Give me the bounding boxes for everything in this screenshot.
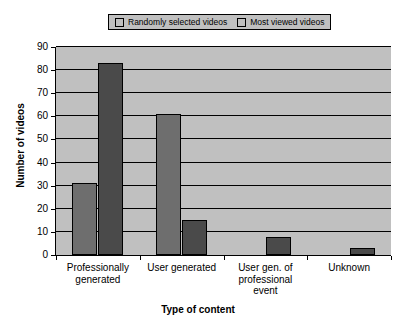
bar — [266, 237, 291, 255]
gridline — [56, 46, 391, 47]
y-axis-tick — [51, 139, 55, 140]
bar — [72, 183, 97, 255]
y-axis-tick — [51, 70, 55, 71]
y-axis-tick-label: 0 — [18, 250, 48, 260]
x-axis-title: Type of content — [0, 304, 396, 315]
y-axis-tick — [51, 47, 55, 48]
legend-entry-randomly-selected-videos: Randomly selected videos — [115, 18, 227, 27]
legend-swatch-series-0 — [115, 18, 124, 27]
x-axis-tick — [307, 256, 308, 260]
chart-legend: Randomly selected videos Most viewed vid… — [108, 14, 331, 30]
x-axis-tick — [391, 256, 392, 260]
legend-label-series-1: Most viewed videos — [250, 18, 324, 27]
x-axis-tick — [224, 256, 225, 260]
x-axis-label-line: Unknown — [307, 262, 391, 274]
x-axis-category-label: Unknown — [307, 262, 391, 274]
bar-chart: Randomly selected videos Most viewed vid… — [0, 0, 396, 327]
y-axis-tick — [51, 232, 55, 233]
x-axis-label-line: User generated — [140, 262, 224, 274]
bar — [182, 220, 207, 255]
legend-swatch-series-1 — [237, 18, 246, 27]
y-axis-line — [55, 47, 56, 256]
x-axis-tick — [140, 256, 141, 260]
x-axis-category-label: User generated — [140, 262, 224, 274]
y-axis-tick — [51, 209, 55, 210]
x-axis-label-line: User gen. of — [224, 262, 308, 274]
x-axis-label-line: Professionally — [56, 262, 140, 274]
x-axis-label-line: professional — [224, 274, 308, 286]
x-axis-category-label: User gen. ofprofessionalevent — [224, 262, 308, 297]
x-axis-tick — [56, 256, 57, 260]
bar — [156, 114, 181, 255]
bar — [98, 63, 123, 255]
plot-area — [56, 47, 391, 255]
legend-label-series-0: Randomly selected videos — [128, 18, 227, 27]
bar — [350, 248, 375, 255]
legend-entry-most-viewed-videos: Most viewed videos — [237, 18, 324, 27]
y-axis-tick-label: 90 — [18, 42, 48, 52]
y-axis-tick — [51, 186, 55, 187]
x-axis-category-label: Professionallygenerated — [56, 262, 140, 285]
y-axis-tick-label: 10 — [18, 227, 48, 237]
x-axis-label-line: generated — [56, 274, 140, 286]
y-axis-tick — [51, 255, 55, 256]
x-axis-label-line: event — [224, 285, 308, 297]
y-axis-tick — [51, 116, 55, 117]
y-axis-tick — [51, 93, 55, 94]
y-axis-tick — [51, 163, 55, 164]
y-axis-title: Number of videos — [15, 71, 26, 221]
